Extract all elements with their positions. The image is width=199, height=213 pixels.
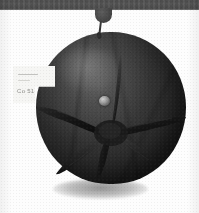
photograph-frame: Co 51 (0, 0, 199, 213)
label-code-text: Co 51 (17, 88, 35, 95)
label-rule-2 (18, 80, 30, 81)
stem-scar (99, 96, 110, 106)
fruit-highlight (60, 48, 118, 90)
fruit-body (36, 32, 186, 184)
label-rule-1 (18, 74, 38, 75)
